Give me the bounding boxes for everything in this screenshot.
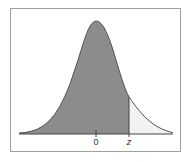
zero-label: 0 xyxy=(93,137,98,147)
normal-distribution-chart: 0 z xyxy=(0,0,190,162)
z-label: z xyxy=(126,137,132,147)
